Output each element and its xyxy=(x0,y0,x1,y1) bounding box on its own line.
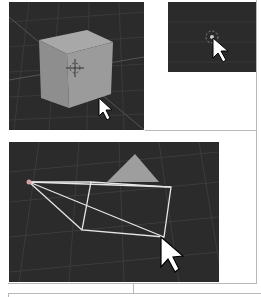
frame-footer-left xyxy=(8,293,9,297)
frame-right-border xyxy=(256,0,257,283)
frame-bottom-divider xyxy=(133,283,134,293)
viewport-camera[interactable] xyxy=(9,142,219,282)
frame-footer-border xyxy=(8,293,261,294)
click-scene xyxy=(168,2,256,72)
frame-mid-border xyxy=(145,130,256,131)
viewport-click[interactable] xyxy=(168,2,256,72)
pointer-icon xyxy=(161,237,183,272)
viewport-cube[interactable] xyxy=(9,2,144,130)
camera-origin-dot xyxy=(27,180,32,185)
cube-object xyxy=(39,30,113,108)
camera-scene xyxy=(9,142,219,282)
cube-scene xyxy=(9,2,144,130)
